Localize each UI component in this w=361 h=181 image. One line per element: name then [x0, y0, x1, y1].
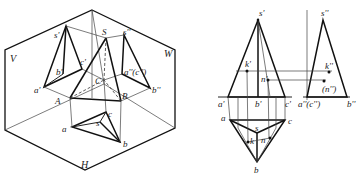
label-a-prime: a' — [34, 85, 42, 95]
proj-line-a — [228, 97, 230, 120]
label-b-prime: b' — [56, 67, 64, 77]
fv-label-b: b' — [255, 99, 263, 109]
vertex-label-C: C — [95, 76, 102, 86]
connector-s-sv — [66, 26, 106, 38]
tv-label-b: b — [254, 165, 259, 175]
fv-label-n: n' — [261, 74, 269, 84]
proj-line-k-vertical — [247, 71, 248, 142]
vertex-label-S: S — [102, 27, 107, 37]
vertex-label-A: A — [54, 96, 61, 106]
sv-label-b: b'' — [347, 99, 356, 109]
sv-label-ac: a''(c'') — [298, 99, 320, 109]
v-h-fold-line — [5, 84, 104, 130]
front-view-outline — [228, 20, 285, 97]
projection-diagram: V W H S A B C s' a' b' c' s'' a''(c'') b… — [0, 0, 361, 181]
label-b-double-prime: b'' — [152, 85, 161, 95]
label-a-h: a — [62, 124, 67, 134]
v-w-fold-line-upper — [92, 10, 104, 84]
connector-s-sw — [106, 35, 124, 38]
tv-label-c: c — [288, 116, 292, 126]
w-projection-outline — [122, 35, 150, 88]
fv-label-a: a' — [218, 99, 226, 109]
label-ac-double-prime: a''(c'') — [124, 67, 146, 77]
sv-label-s: s'' — [321, 8, 329, 18]
projection-box-outline — [5, 10, 175, 170]
sv-label-k: k'' — [325, 61, 334, 71]
connector-b-bh — [120, 101, 121, 142]
orthographic-figure: s' a' b' c' k' n' s'' a''(c'') b'' k'' (… — [218, 8, 356, 175]
top-view-aux-line-k — [238, 128, 257, 162]
label-s-double-prime: s'' — [123, 27, 131, 37]
label-s-prime: s' — [54, 30, 61, 40]
connector-a-ah — [70, 98, 72, 127]
connector-c-cw — [104, 74, 122, 80]
fv-label-k: k' — [245, 59, 252, 69]
point-n-double-prime — [323, 80, 326, 83]
w-h-fold-line — [104, 84, 175, 128]
label-c-prime: c' — [80, 57, 87, 67]
fv-label-s: s' — [259, 8, 266, 18]
pyramid-edge-SC-hidden — [104, 38, 106, 80]
point-n — [269, 137, 272, 140]
plane-label-v: V — [10, 53, 18, 64]
label-b-h: b — [123, 139, 128, 149]
v-projection-outline — [44, 26, 82, 87]
label-s-h: s — [96, 118, 100, 128]
fv-label-c: c' — [285, 99, 292, 109]
tv-label-s: s — [255, 123, 259, 133]
pyramid-edge-AB — [70, 98, 121, 101]
tv-label-a: a — [221, 113, 226, 123]
vertex-label-B: B — [122, 91, 128, 101]
top-view-aux-line-n — [257, 128, 276, 162]
pyramid-edge-SA — [70, 38, 106, 98]
point-k-prime — [246, 70, 249, 73]
sv-label-n: (n'') — [322, 84, 336, 94]
plane-label-h: H — [80, 159, 89, 170]
tv-label-n: n — [261, 135, 266, 145]
label-c-h: c — [108, 109, 112, 119]
axonometric-figure: V W H S A B C s' a' b' c' s'' a''(c'') b… — [5, 10, 175, 170]
point-s-prime — [257, 19, 260, 22]
plane-label-w: W — [164, 48, 174, 59]
